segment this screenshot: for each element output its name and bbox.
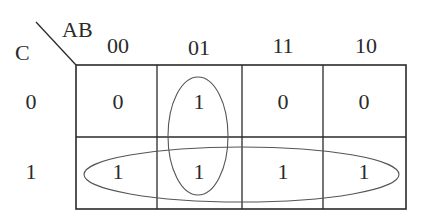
cell-r1-c00: 1 [98,161,138,183]
cell-r0-c00: 0 [98,91,138,113]
column-header-01: 01 [169,37,229,59]
cell-r1-c01: 1 [179,161,219,183]
column-header-10: 10 [336,35,396,57]
karnaugh-map: AB C 00 01 11 10 0 1 0 1 0 0 1 1 1 1 [0,0,426,221]
cell-r0-c01: 1 [179,91,219,113]
row-header-1: 1 [16,161,46,183]
column-header-00: 00 [88,35,148,57]
cell-r0-c10: 0 [344,91,384,113]
column-header-11: 11 [253,35,313,57]
row-header-0: 0 [16,91,46,113]
cell-r1-c10: 1 [344,161,384,183]
row-variables-label: C [15,42,30,64]
cell-r1-c11: 1 [263,161,303,183]
cell-r0-c11: 0 [263,91,303,113]
